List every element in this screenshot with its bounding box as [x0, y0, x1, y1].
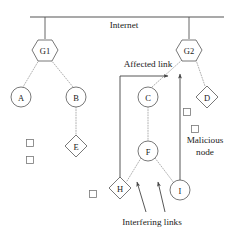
node-f[interactable]: F — [138, 141, 158, 161]
diagram-canvas: Internet Affected link Interfering — [0, 0, 239, 235]
node-a[interactable]: A — [11, 87, 31, 107]
node-b[interactable]: B — [66, 87, 86, 107]
network-diagram: Internet Affected link Interfering — [0, 0, 239, 235]
node-c[interactable]: C — [138, 87, 158, 107]
node-a-label: A — [18, 93, 25, 103]
interfering-arrow-left — [137, 182, 146, 212]
node-h-label: H — [117, 184, 123, 194]
terminal-square-1 — [27, 140, 34, 147]
link-g2-d — [196, 60, 205, 86]
internet-label: Internet — [110, 20, 139, 30]
node-g2-label: G2 — [184, 46, 194, 56]
malicious-node-label-line2: node — [196, 147, 214, 157]
node-g1[interactable]: G1 — [32, 40, 58, 61]
wireless-links — [23, 60, 205, 183]
node-b-label: B — [73, 93, 79, 103]
affected-link-annotation: Affected link — [120, 59, 173, 181]
internet-backbone: Internet — [30, 17, 224, 30]
link-g1-b — [51, 60, 73, 87]
terminal-square-2 — [27, 157, 34, 164]
malicious-node-annotation: Malicious node — [187, 135, 224, 157]
node-e[interactable]: E — [65, 135, 87, 157]
interfering-links-label: Interfering links — [122, 217, 182, 227]
terminal-square-5 — [90, 191, 97, 198]
node-c-label: C — [145, 93, 151, 103]
terminal-square-4 — [192, 126, 199, 133]
node-f-label: F — [146, 147, 151, 157]
node-d-label: D — [204, 93, 210, 103]
link-g1-a — [23, 60, 39, 87]
node-g1-label: G1 — [40, 46, 50, 56]
interfering-arrow-right — [158, 182, 165, 212]
node-e-label: E — [73, 142, 78, 152]
node-i[interactable]: I — [170, 180, 190, 200]
link-f-h — [127, 158, 141, 181]
node-i-label: I — [179, 186, 182, 196]
link-f-i — [155, 158, 174, 183]
node-g2[interactable]: G2 — [176, 40, 202, 61]
node-d[interactable]: D — [196, 86, 218, 108]
affected-link-label: Affected link — [124, 59, 173, 69]
terminal-square-3 — [184, 109, 191, 116]
malicious-node-label-line1: Malicious — [187, 135, 224, 145]
